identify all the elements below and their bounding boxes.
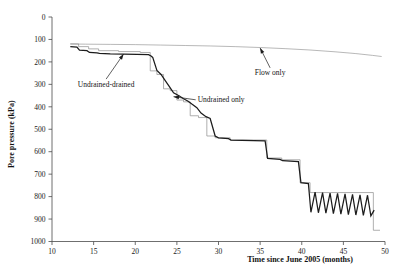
pore-pressure-chart-figure: 10009008007006005004003002001000 1015202… — [0, 0, 404, 272]
y-tick-label: 500 — [34, 125, 46, 134]
y-tick-label: 100 — [34, 35, 46, 44]
x-axis-tick-group: 101520253035404550 — [48, 242, 389, 256]
x-axis-title: Time since June 2005 (months) — [247, 255, 353, 264]
x-tick-label: 15 — [90, 247, 98, 256]
y-tick-label: 300 — [34, 80, 46, 89]
y-tick-label: 1000 — [31, 237, 46, 246]
x-tick-label: 10 — [48, 247, 56, 256]
y-tick-label: 200 — [34, 58, 46, 67]
annotation-group: Undrained-drainedUndrained onlyFlow only — [78, 48, 286, 104]
y-tick-label: 600 — [34, 147, 46, 156]
y-tick-label: 400 — [34, 103, 46, 112]
chart-annotation-label: Undrained-drained — [78, 80, 135, 89]
chart-canvas: 10009008007006005004003002001000 1015202… — [0, 0, 404, 272]
x-tick-label: 50 — [381, 247, 389, 256]
x-tick-label: 25 — [173, 247, 181, 256]
chart-annotation-label: Flow only — [255, 68, 286, 77]
x-tick-label: 30 — [215, 247, 223, 256]
series-undrained-only — [70, 44, 380, 230]
y-tick-label: 800 — [34, 192, 46, 201]
series-flow-only — [70, 44, 381, 57]
series-undrained-drained — [70, 47, 374, 216]
y-tick-label: 700 — [34, 170, 46, 179]
x-tick-label: 20 — [132, 247, 140, 256]
y-tick-label: 0 — [42, 13, 46, 22]
y-tick-label: 900 — [34, 215, 46, 224]
y-axis-title: Pore pressure (kPa) — [7, 100, 16, 168]
chart-annotation-label: Undrained only — [198, 95, 245, 104]
y-axis-tick-group: 10009008007006005004003002001000 — [31, 13, 53, 247]
